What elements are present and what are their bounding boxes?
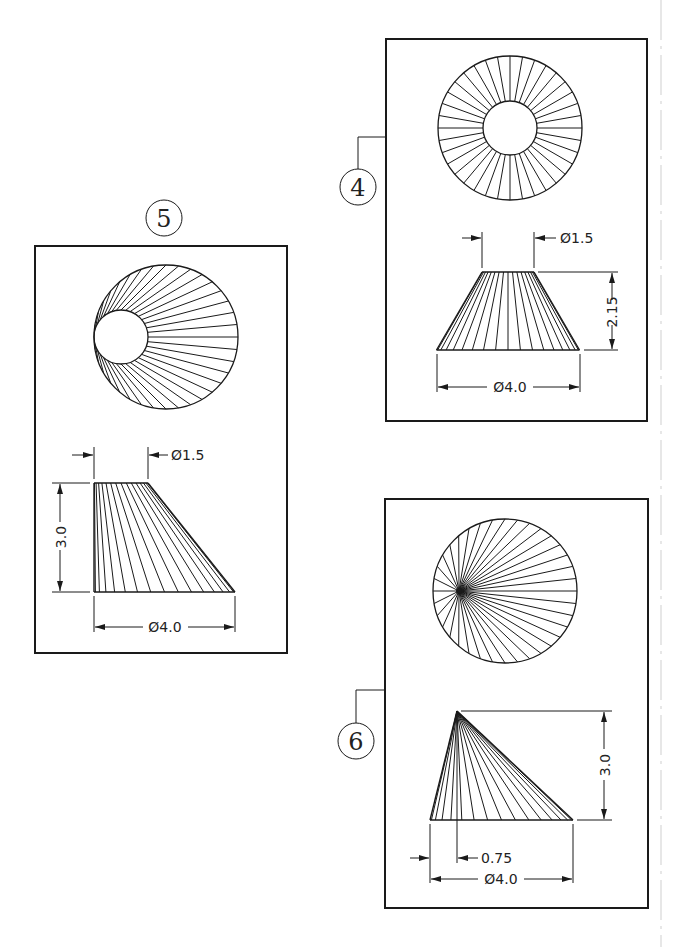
- view-5-bottom-diameter: Ø4.0: [148, 619, 181, 635]
- view-4-top-diameter: Ø1.5: [560, 230, 593, 246]
- view-4-dimensions: [437, 232, 618, 392]
- view-4-height: 2.15: [604, 296, 620, 327]
- view-6-apex-offset: 0.75: [481, 850, 512, 866]
- view-5-balloon-label: 5: [156, 205, 171, 233]
- view-6-top-view: [433, 519, 577, 663]
- view-6-front-view: [430, 711, 573, 820]
- view-4-top-view: [438, 56, 582, 200]
- view-4: 4 Ø1.5 2.15 Ø4.0: [340, 39, 647, 421]
- view-6-height: 3.0: [597, 754, 613, 776]
- view-5: 5 Ø1.5 3.0 Ø4.0: [35, 200, 287, 653]
- view-4-bottom-diameter: Ø4.0: [493, 379, 526, 395]
- view-6-bottom-diameter: Ø4.0: [484, 871, 517, 887]
- view-6-leader: [356, 690, 385, 723]
- view-4-frame: [386, 39, 647, 421]
- view-6-balloon-label: 6: [348, 728, 363, 756]
- view-5-height: 3.0: [53, 526, 69, 548]
- view-6-frame: [385, 499, 648, 908]
- view-5-front-view: [94, 483, 235, 592]
- view-4-front-view: [437, 272, 580, 350]
- view-4-balloon-label: 4: [350, 174, 365, 202]
- view-5-top-diameter: Ø1.5: [171, 447, 204, 463]
- view-6: 6 3.0 0.75 Ø4.0: [338, 499, 648, 908]
- view-4-leader: [358, 137, 386, 169]
- view-5-top-view: [94, 265, 238, 409]
- drawing-sheet: 4 Ø1.5 2.15 Ø4.0 5: [0, 0, 683, 947]
